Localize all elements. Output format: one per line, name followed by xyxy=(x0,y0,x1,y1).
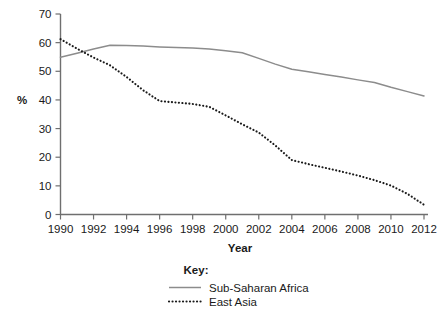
x-tick-label: 2012 xyxy=(411,223,437,235)
line-chart-svg: 010203040506070 199019921994199619982000… xyxy=(0,0,443,313)
legend-title: Key: xyxy=(184,264,209,276)
x-tick-label: 1998 xyxy=(180,223,206,235)
x-tick-label: 2006 xyxy=(312,223,338,235)
legend-label-sub-saharan-africa: Sub-Saharan Africa xyxy=(209,282,309,294)
y-axis-title: % xyxy=(17,94,27,106)
y-tick-label: 20 xyxy=(39,151,52,163)
y-tick-label: 10 xyxy=(39,180,52,192)
y-tick-label: 30 xyxy=(39,123,52,135)
y-axis-ticks xyxy=(56,14,61,215)
x-tick-label: 2004 xyxy=(279,223,305,235)
series-line-sub-saharan-africa xyxy=(61,45,425,96)
y-tick-label: 0 xyxy=(45,209,51,221)
x-axis-tick-labels: 1990199219941996199820002002200420062008… xyxy=(48,223,437,235)
y-axis-tick-labels: 010203040506070 xyxy=(39,8,52,221)
x-tick-label: 1994 xyxy=(114,223,140,235)
chart-container: 010203040506070 199019921994199619982000… xyxy=(0,0,443,313)
axes-group xyxy=(60,14,428,215)
legend-label-east-asia: East Asia xyxy=(209,296,258,308)
x-tick-label: 1992 xyxy=(81,223,107,235)
y-tick-label: 50 xyxy=(39,65,52,77)
y-tick-label: 60 xyxy=(39,37,52,49)
x-tick-label: 2000 xyxy=(213,223,239,235)
x-tick-label: 1996 xyxy=(147,223,173,235)
x-tick-label: 2010 xyxy=(378,223,404,235)
series-line-east-asia xyxy=(61,39,425,205)
x-tick-label: 2002 xyxy=(246,223,272,235)
x-axis-title: Year xyxy=(228,242,253,254)
x-axis-ticks xyxy=(61,215,425,220)
series-group xyxy=(61,39,425,205)
x-tick-label: 2008 xyxy=(345,223,371,235)
y-tick-label: 40 xyxy=(39,94,52,106)
y-tick-label: 70 xyxy=(39,8,52,20)
x-tick-label: 1990 xyxy=(48,223,74,235)
legend: Key: Sub-Saharan Africa East Asia xyxy=(169,264,309,308)
